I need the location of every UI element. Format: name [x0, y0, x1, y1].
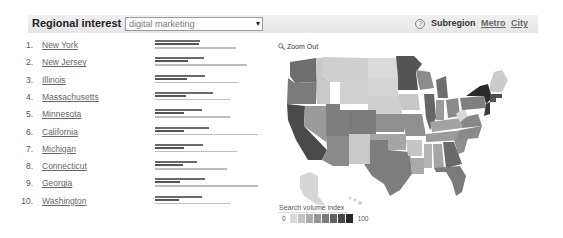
legend-swatch — [290, 214, 297, 223]
interest-bar-baseline — [155, 151, 237, 153]
state-colorado — [349, 110, 376, 134]
interest-bar-primary — [155, 161, 197, 163]
state-new-mexico — [349, 134, 370, 164]
state-alaska — [300, 172, 326, 206]
region-row: 9.Georgia — [0, 176, 270, 193]
subregion-label[interactable]: Subregion — [431, 18, 476, 28]
region-row: 3.Illinois — [0, 73, 270, 90]
region-link[interactable]: California — [42, 127, 78, 137]
state-hawaii — [349, 197, 352, 200]
state-louisiana — [410, 158, 424, 174]
region-row: 10.Washington — [0, 194, 270, 211]
state-massachusetts — [490, 94, 502, 98]
help-icon[interactable]: ? — [415, 19, 425, 29]
state-washington — [290, 58, 317, 83]
interest-bar-baseline — [155, 47, 236, 49]
state-missouri — [402, 114, 426, 136]
regional-interest-header: Regional interest digital marketing ▾ ? … — [28, 15, 538, 33]
region-link[interactable]: Illinois — [42, 75, 66, 85]
state-pennsylvania — [460, 96, 486, 110]
state-iowa — [398, 94, 420, 110]
legend-swatch — [306, 214, 313, 223]
subregion-controls: ? Subregion Metro City — [415, 18, 528, 29]
interest-bar-secondary — [155, 164, 183, 166]
city-link[interactable]: City — [511, 18, 528, 28]
interest-bar-secondary — [155, 130, 184, 132]
state-montana — [322, 57, 368, 82]
legend-swatch — [298, 214, 305, 223]
rank-number: 10. — [21, 196, 33, 206]
search-volume-legend: 0 100 — [278, 214, 372, 223]
rank-number: 3. — [26, 75, 33, 85]
region-link[interactable]: New York — [42, 40, 78, 50]
interest-bar-secondary — [155, 95, 186, 97]
state-north-dakota — [368, 58, 398, 78]
legend-swatch — [346, 214, 353, 223]
legend-swatch — [322, 214, 329, 223]
state-new-england-north — [490, 70, 508, 92]
metro-link[interactable]: Metro — [481, 18, 506, 28]
region-row: 5.Minnesota — [0, 107, 270, 124]
rank-number: 8. — [26, 161, 33, 171]
region-link[interactable]: New Jersey — [42, 57, 86, 67]
legend-max-label: 100 — [358, 215, 369, 222]
rank-number: 4. — [26, 92, 33, 102]
state-florida — [434, 166, 466, 196]
state-connecticut — [490, 98, 496, 102]
rank-number: 5. — [26, 109, 33, 119]
region-link[interactable]: Washington — [42, 196, 87, 206]
legend-divider — [278, 212, 348, 213]
interest-bar-primary — [155, 178, 205, 180]
interest-bar-baseline — [155, 116, 230, 118]
interest-bar-primary — [155, 144, 203, 146]
interest-bar-primary — [155, 57, 204, 59]
region-link[interactable]: Massachusetts — [42, 92, 99, 102]
region-link[interactable]: Minnesota — [42, 109, 81, 119]
region-link[interactable]: Michigan — [42, 144, 76, 154]
interest-bar-primary — [155, 75, 205, 77]
interest-bar-baseline — [155, 203, 230, 205]
rank-number: 2. — [26, 57, 33, 67]
region-row: 6.California — [0, 125, 270, 142]
state-alabama — [433, 144, 444, 168]
interest-bar-baseline — [155, 168, 227, 170]
interest-bar-baseline — [155, 64, 247, 66]
legend-swatch — [338, 214, 345, 223]
state-south-dakota — [368, 78, 398, 96]
rank-number: 6. — [26, 127, 33, 137]
region-row: 1.New York — [0, 38, 270, 55]
search-term-dropdown[interactable]: digital marketing ▾ — [125, 17, 263, 31]
state-wyoming — [340, 82, 368, 104]
interest-bar-secondary — [155, 43, 199, 45]
interest-bar-secondary — [155, 181, 180, 183]
interest-bar-primary — [155, 196, 202, 198]
interest-bar-baseline — [155, 134, 258, 136]
section-title: Regional interest — [32, 17, 121, 29]
state-kansas — [376, 114, 404, 132]
interest-bar-secondary — [155, 60, 188, 62]
state-michigan — [436, 76, 448, 98]
interest-bar-secondary — [155, 199, 179, 201]
interest-bar-secondary — [155, 112, 184, 114]
region-row: 8.Connecticut — [0, 159, 270, 176]
rank-number: 9. — [26, 178, 33, 188]
state-wisconsin — [416, 70, 434, 90]
interest-bar-baseline — [155, 82, 238, 84]
search-term-value: digital marketing — [129, 19, 195, 29]
region-row: 2.New Jersey — [0, 55, 270, 72]
region-link[interactable]: Connecticut — [42, 161, 87, 171]
legend-min-label: 0 — [282, 215, 286, 222]
region-row: 7.Michigan — [0, 142, 270, 159]
interest-bar-primary — [155, 92, 213, 94]
interest-bar-primary — [155, 109, 202, 111]
region-link[interactable]: Georgia — [42, 178, 72, 188]
state-mississippi — [424, 144, 432, 168]
interest-bar-baseline — [155, 99, 230, 101]
interest-bar-baseline — [155, 185, 258, 187]
state-indiana — [436, 100, 444, 120]
legend-swatch — [314, 214, 321, 223]
chevron-down-icon[interactable]: ▾ — [256, 18, 260, 30]
interest-bar-secondary — [155, 147, 184, 149]
interest-bar-secondary — [155, 78, 187, 80]
state-arkansas — [406, 140, 422, 156]
